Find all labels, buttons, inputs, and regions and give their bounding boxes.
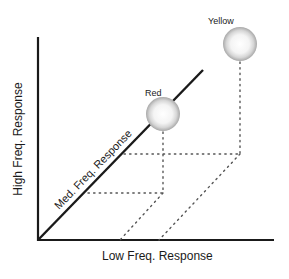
y-axis-label: High Freq. Response bbox=[11, 82, 25, 196]
red-sphere bbox=[146, 97, 180, 131]
frequency-response-diagram: Red Yellow Low Freq. Response High Freq.… bbox=[0, 0, 289, 279]
z-axis-line bbox=[38, 70, 203, 240]
yellow-sphere bbox=[223, 27, 257, 61]
x-axis-label: Low Freq. Response bbox=[102, 249, 213, 263]
red-label: Red bbox=[145, 88, 162, 98]
yellow-projection-lines bbox=[124, 62, 240, 240]
yellow-label: Yellow bbox=[208, 16, 234, 26]
yellow-diagonal-dotted bbox=[159, 154, 240, 240]
red-diagonal-dotted bbox=[120, 193, 163, 240]
z-axis-label: Med. Freq. Response bbox=[52, 127, 134, 211]
